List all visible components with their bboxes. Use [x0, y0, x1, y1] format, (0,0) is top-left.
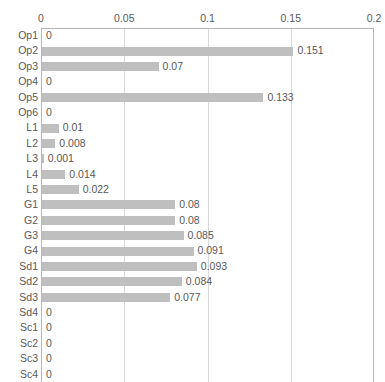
bar-row: Op30.07 [0, 59, 385, 74]
category-label: Sc3 [20, 351, 38, 366]
bar-value-label: 0.01 [63, 120, 83, 135]
bar-row: Op20.151 [0, 43, 385, 58]
x-tick-label: 0.15 [281, 11, 301, 25]
bar [42, 293, 170, 302]
bar-row: G10.08 [0, 197, 385, 212]
bar [42, 216, 175, 225]
bar-value-label: 0 [46, 305, 52, 320]
bar-value-label: 0.008 [59, 136, 85, 151]
bar-row: L30.001 [0, 151, 385, 166]
category-label: Sd2 [19, 274, 38, 289]
category-label: G2 [24, 213, 38, 228]
bar-value-label: 0 [46, 105, 52, 120]
bar [42, 47, 293, 56]
category-label: G4 [24, 243, 38, 258]
category-label: Sd4 [19, 305, 38, 320]
bar-row: Sc30 [0, 351, 385, 366]
bar-value-label: 0.091 [198, 243, 224, 258]
bar-row: Op10 [0, 28, 385, 43]
category-label: Op1 [18, 28, 38, 43]
category-label: G3 [24, 228, 38, 243]
category-label: Sc2 [20, 336, 38, 351]
bar-row: Sc40 [0, 367, 385, 382]
category-label: G1 [24, 197, 38, 212]
bar-value-label: 0 [46, 336, 52, 351]
bar-value-label: 0.08 [179, 213, 199, 228]
bar-row: Sc10 [0, 320, 385, 335]
category-label: Op5 [18, 90, 38, 105]
bar-value-label: 0.001 [48, 151, 74, 166]
bar [42, 154, 44, 163]
bar-value-label: 0.093 [201, 259, 227, 274]
x-tick-label: 0 [38, 11, 44, 25]
category-label: Op4 [18, 74, 38, 89]
bar [42, 170, 65, 179]
bar-chart: 00.050.10.150.2 Op10Op20.151Op30.07Op40O… [0, 0, 385, 382]
bar [42, 247, 194, 256]
x-tick-label: 0.05 [114, 11, 134, 25]
category-label: L2 [26, 136, 38, 151]
bar-value-label: 0.014 [69, 167, 95, 182]
category-label: Sd1 [19, 259, 38, 274]
category-label: Sd3 [19, 290, 38, 305]
bar-value-label: 0.151 [297, 43, 323, 58]
category-label: Sc1 [20, 320, 38, 335]
bar-row: Sd10.093 [0, 259, 385, 274]
bar-row: L40.014 [0, 167, 385, 182]
bar-row: Sd40 [0, 305, 385, 320]
bar-value-label: 0.08 [179, 197, 199, 212]
category-label: L3 [26, 151, 38, 166]
bar [42, 231, 184, 240]
bar-value-label: 0.133 [267, 90, 293, 105]
bar-value-label: 0.085 [188, 228, 214, 243]
bar-row: L20.008 [0, 136, 385, 151]
bar-value-label: 0 [46, 28, 52, 43]
bar-value-label: 0 [46, 74, 52, 89]
category-label: L4 [26, 167, 38, 182]
category-label: Op6 [18, 105, 38, 120]
bar [42, 277, 182, 286]
bar-value-label: 0 [46, 367, 52, 382]
category-label: Op2 [18, 43, 38, 58]
bar-row: L10.01 [0, 120, 385, 135]
bar-row: Sd20.084 [0, 274, 385, 289]
category-label: L5 [26, 182, 38, 197]
bar-row: Sc20 [0, 336, 385, 351]
bar-rows: Op10Op20.151Op30.07Op40Op50.133Op60L10.0… [0, 28, 385, 382]
bar [42, 124, 59, 133]
bar-row: Sd30.077 [0, 290, 385, 305]
bar-row: G20.08 [0, 213, 385, 228]
category-label: Op3 [18, 59, 38, 74]
bar [42, 200, 175, 209]
x-tick-label: 0.1 [200, 11, 215, 25]
bar-value-label: 0 [46, 320, 52, 335]
bar [42, 139, 55, 148]
bar-value-label: 0.077 [174, 290, 200, 305]
bar [42, 185, 79, 194]
bar-row: Op40 [0, 74, 385, 89]
bar [42, 93, 263, 102]
bar-row: G40.091 [0, 243, 385, 258]
category-label: Sc4 [20, 367, 38, 382]
bar [42, 262, 197, 271]
x-axis-tick-labels: 00.050.10.150.2 [0, 11, 385, 27]
bar [42, 62, 159, 71]
category-label: L1 [26, 120, 38, 135]
bar-value-label: 0.084 [186, 274, 212, 289]
bar-value-label: 0 [46, 351, 52, 366]
bar-row: L50.022 [0, 182, 385, 197]
bar-row: Op50.133 [0, 90, 385, 105]
bar-row: Op60 [0, 105, 385, 120]
x-tick-label: 0.2 [367, 11, 382, 25]
bar-row: G30.085 [0, 228, 385, 243]
bar-value-label: 0.07 [163, 59, 183, 74]
bar-value-label: 0.022 [83, 182, 109, 197]
